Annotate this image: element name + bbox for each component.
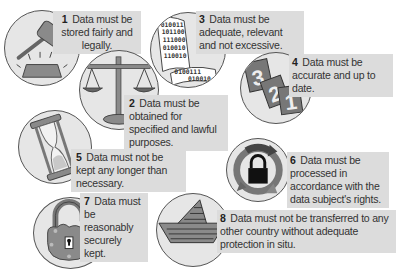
svg-text:110010: 110010 [164, 52, 187, 59]
principle-text: Data must be reasonably securely kept. [84, 195, 140, 259]
principle-3-label: 3 Data must be adequate, relevant and no… [196, 11, 304, 54]
svg-text:111000: 111000 [163, 36, 186, 43]
principle-text: Data must be stored fairly and legally. [61, 13, 132, 51]
principle-text: Data must be obtained for specified and … [129, 97, 217, 148]
principle-7-label: 7 Data must be reasonably securely kept. [80, 193, 148, 262]
principle-2-label: 2 Data must be obtained for specified an… [124, 95, 228, 151]
principle-text: Data must be accurate and up to date. [292, 56, 375, 94]
principle-number: 6 [290, 154, 296, 166]
svg-text:010010: 010010 [163, 44, 186, 51]
svg-text:010011: 010011 [161, 21, 184, 28]
principle-number: 1 [62, 13, 68, 25]
principle-8-label: 8 Data must not be transferred to any ot… [217, 210, 396, 253]
principle-text: Data must be processed in accordance wit… [290, 154, 381, 205]
principle-number: 2 [129, 97, 135, 109]
principle-number: 8 [220, 212, 226, 224]
principle-number: 4 [292, 56, 298, 68]
principle-number: 3 [199, 13, 205, 25]
principle-1-label: 1 Data must be stored fairly and legally… [53, 11, 141, 54]
principle-number: 7 [84, 195, 90, 207]
principle-5-label: 5 Data must not be kept any longer than … [71, 149, 186, 192]
principle-4-label: 4 Data must be accurate and up to date. [289, 54, 393, 97]
principle-text: Data must be adequate, relevant and not … [199, 13, 282, 51]
principle-number: 5 [76, 151, 82, 163]
lock-cycle-icon [227, 139, 289, 201]
principle-6-label: 6 Data must be processed in accordance w… [287, 152, 389, 208]
principle-text: Data must not be kept any longer than ne… [76, 151, 167, 189]
principle-6-illustration [226, 138, 290, 202]
svg-text:010010: 010010 [188, 75, 211, 82]
svg-text:101100: 101100 [162, 28, 185, 35]
principle-text: Data must not be transferred to any othe… [220, 212, 389, 250]
